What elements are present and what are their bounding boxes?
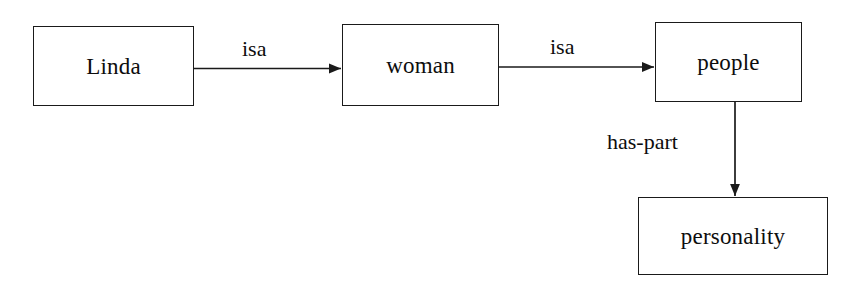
- semantic-network-diagram: Linda woman people personality isa isa h…: [0, 0, 852, 297]
- edge-label-has-part-people-personality: has-part: [607, 131, 678, 153]
- node-people[interactable]: people: [655, 22, 802, 102]
- node-label-people: people: [697, 51, 760, 74]
- edge-label-isa-linda-woman: isa: [242, 38, 266, 60]
- node-label-personality: personality: [681, 225, 785, 248]
- node-label-woman: woman: [386, 54, 455, 77]
- node-label-linda: Linda: [86, 55, 141, 78]
- node-woman[interactable]: woman: [342, 24, 499, 106]
- node-personality[interactable]: personality: [638, 197, 828, 275]
- edge-label-isa-woman-people: isa: [550, 36, 574, 58]
- node-linda[interactable]: Linda: [33, 26, 194, 106]
